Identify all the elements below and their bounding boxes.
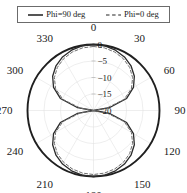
angle-label-60: 60 [164,64,176,76]
angle-label-240: 240 [7,145,24,157]
chart-legend: Phi=90 deg Phi=0 deg [17,6,170,23]
angle-label-0: 0 [91,24,97,33]
grid-spoke-330 [61,53,94,110]
legend-entry-phi0: Phi=0 deg [106,10,159,19]
angle-label-150: 150 [134,178,151,190]
angle-label-300: 300 [7,64,24,76]
radial-label--20: −20 [98,106,113,116]
legend-label-phi90: Phi=90 deg [46,10,85,19]
legend-entry-phi90: Phi=90 deg [28,10,85,19]
radial-label--15: −15 [98,89,113,99]
grid-spoke-240 [36,111,93,144]
legend-label-phi0: Phi=0 deg [124,10,159,19]
radial-label--5: −5 [98,56,108,66]
grid-spoke-210 [61,111,94,168]
grid-spoke-150 [94,111,127,168]
polar-plot-svg: 0306090120150180210240270300330 0−5−10−1… [0,24,187,193]
grid-spoke-300 [36,78,93,111]
radiation-pattern-figure: Phi=90 deg Phi=0 deg 0306090120150180210… [0,0,187,193]
angle-label-270: 270 [0,104,13,116]
angle-label-210: 210 [37,178,54,190]
solid-line-sample [28,13,43,17]
radial-tick-labels: 0−5−10−15−20 [98,40,113,116]
radial-label--10: −10 [98,73,113,83]
radial-label-0: 0 [98,40,103,50]
angle-label-330: 330 [37,32,54,44]
angle-label-90: 90 [175,104,187,116]
angle-label-30: 30 [134,32,146,44]
polar-plot: 0306090120150180210240270300330 0−5−10−1… [0,24,187,193]
angle-label-120: 120 [164,145,181,157]
angle-label-180: 180 [85,189,102,193]
dashed-line-sample [106,13,121,17]
